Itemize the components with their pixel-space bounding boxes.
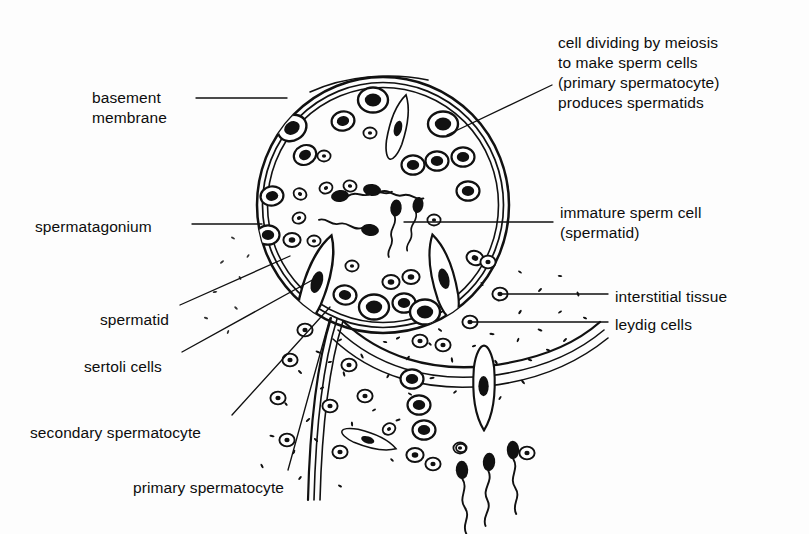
spermatagonium-cell bbox=[401, 369, 424, 388]
spermatid-cell bbox=[381, 421, 398, 437]
leader-spermatid bbox=[180, 256, 290, 305]
spermatid-cell bbox=[318, 181, 334, 196]
label-sertoli-cells: sertoli cells bbox=[84, 357, 162, 377]
spermatid-cell bbox=[345, 261, 358, 272]
secondary-spermatocyte-cell bbox=[283, 233, 300, 247]
leydig-cell bbox=[282, 354, 297, 367]
label-meiosis-note: cell dividing by meiosis to make sperm c… bbox=[558, 33, 720, 113]
leader-sertoli-cells bbox=[182, 278, 316, 352]
leydig-cell bbox=[279, 434, 294, 447]
primary-spermatocyte-cell bbox=[428, 112, 458, 137]
leydig-cell bbox=[435, 339, 450, 352]
secondary-spermatocyte-cell bbox=[426, 151, 449, 170]
mature-sperm-group bbox=[455, 441, 521, 534]
spermatid-cell bbox=[382, 275, 399, 289]
spermatagonium-cell bbox=[413, 420, 436, 439]
spermatid-cell bbox=[292, 186, 309, 202]
spermatid-with-tail bbox=[362, 183, 424, 201]
spermatid-with-tail bbox=[318, 217, 380, 237]
stipple-texture-left bbox=[204, 236, 250, 334]
leydig-cell bbox=[341, 359, 356, 372]
label-basement-membrane: basement membrane bbox=[92, 88, 167, 128]
primary-spermatocyte-cell bbox=[410, 300, 440, 325]
spermatagonium-cell bbox=[408, 395, 431, 414]
leydig-cell bbox=[357, 390, 372, 403]
label-leydig-cells: leydig cells bbox=[615, 315, 692, 335]
spermatagonium-cell bbox=[358, 88, 388, 113]
label-interstitial-tissue: interstitial tissue bbox=[615, 287, 727, 307]
label-spermatid: spermatid bbox=[100, 310, 169, 330]
lower-tubule-contents bbox=[340, 346, 495, 462]
spermatagonium-cell bbox=[291, 141, 320, 168]
leader-primary-spermatocyte bbox=[288, 318, 330, 470]
spermatid-with-tail bbox=[386, 199, 402, 258]
spermatid-cell bbox=[291, 211, 307, 226]
label-primary-spermatocyte: primary spermatocyte bbox=[133, 478, 284, 498]
primary-spermatocyte-cell bbox=[457, 181, 480, 200]
spermatid-cell bbox=[402, 270, 419, 284]
leydig-cell bbox=[519, 447, 534, 460]
spermatid-cell bbox=[363, 128, 376, 139]
diagram-canvas: basement membrane spermatagonium spermat… bbox=[0, 0, 809, 534]
leydig-cell bbox=[480, 256, 495, 269]
secondary-spermatocyte-cell bbox=[402, 155, 425, 174]
spermatid-with-tail bbox=[330, 183, 392, 203]
leader-meiosis-note bbox=[447, 85, 552, 135]
sertoli-cell bbox=[473, 346, 494, 431]
leydig-cell bbox=[425, 458, 440, 471]
sperm-cell bbox=[478, 452, 495, 526]
spermatid-cell bbox=[427, 215, 440, 226]
spermatid-with-tail bbox=[405, 196, 425, 252]
spermatagonium-cell bbox=[330, 109, 356, 133]
spermatagonium-cell bbox=[359, 295, 389, 320]
label-secondary-spermatocyte: secondary spermatocyte bbox=[30, 423, 201, 443]
spermatagonium-cell bbox=[332, 284, 357, 306]
label-immature-sperm-cell: immature sperm cell (spermatid) bbox=[560, 203, 701, 243]
spermatid-cell bbox=[406, 448, 423, 462]
leydig-cell bbox=[412, 335, 427, 348]
spermatid-cell bbox=[317, 151, 330, 162]
spermatid-cell bbox=[307, 236, 320, 247]
label-spermatagonium: spermatagonium bbox=[35, 217, 152, 237]
sperm-cell bbox=[455, 460, 471, 534]
primary-spermatocyte-cell bbox=[452, 147, 475, 166]
leydig-cell bbox=[332, 446, 347, 459]
leydig-cell bbox=[322, 400, 337, 413]
leydig-cell bbox=[270, 392, 285, 405]
